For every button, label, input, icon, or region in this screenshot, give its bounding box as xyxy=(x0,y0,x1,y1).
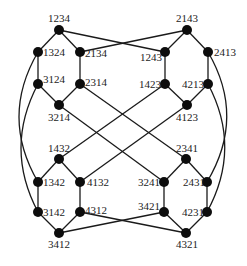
node-4213 xyxy=(203,79,213,89)
edge-3214-3241 xyxy=(59,105,164,182)
edge-2314-2341 xyxy=(80,84,186,159)
node-label: 4123 xyxy=(176,111,199,123)
node-4312 xyxy=(75,207,85,217)
node-4132 xyxy=(75,177,85,187)
edge-1234-1243 xyxy=(59,30,165,52)
node-2134 xyxy=(75,47,85,57)
node-label: 4213 xyxy=(182,78,205,90)
node-label: 1423 xyxy=(139,78,162,90)
node-label: 3214 xyxy=(48,111,71,123)
edge-1423-1432 xyxy=(59,84,165,159)
node-3421 xyxy=(159,207,169,217)
node-label: 3412 xyxy=(48,238,70,250)
node-label: 3241 xyxy=(138,176,160,188)
node-3412 xyxy=(54,228,64,238)
node-2314 xyxy=(75,79,85,89)
edge-4123-4132 xyxy=(80,105,187,182)
node-3124 xyxy=(33,79,43,89)
node-4321 xyxy=(181,228,191,238)
node-1432 xyxy=(54,154,64,164)
node-label: 2134 xyxy=(85,47,108,59)
node-2413 xyxy=(203,47,213,57)
node-label: 4231 xyxy=(182,206,204,218)
node-1423 xyxy=(160,79,170,89)
node-label: 2143 xyxy=(176,12,199,24)
node-2143 xyxy=(182,25,192,35)
node-1324 xyxy=(33,47,43,57)
node-label: 3142 xyxy=(43,206,65,218)
node-label: 2314 xyxy=(85,76,108,88)
node-label: 1342 xyxy=(43,176,65,188)
edge-layer xyxy=(38,30,208,233)
node-1342 xyxy=(33,177,43,187)
edge-3412-3421 xyxy=(59,212,164,233)
node-label: 1432 xyxy=(48,142,70,154)
node-label: 1234 xyxy=(48,12,71,24)
graph-canvas: 1234132421343124231432142143124324131423… xyxy=(0,0,247,266)
node-label: 3124 xyxy=(43,73,66,85)
node-label: 1324 xyxy=(43,46,66,58)
node-label: 4321 xyxy=(176,238,198,250)
node-label: 4312 xyxy=(85,204,107,216)
node-3241 xyxy=(159,177,169,187)
node-3214 xyxy=(54,100,64,110)
node-label: 4132 xyxy=(87,176,109,188)
node-label: 2341 xyxy=(176,142,198,154)
node-2341 xyxy=(181,154,191,164)
node-3142 xyxy=(33,207,43,217)
node-label: 2413 xyxy=(214,46,237,58)
node-label: 1243 xyxy=(140,51,163,63)
node-label: 3421 xyxy=(138,200,160,212)
node-1234 xyxy=(54,25,64,35)
node-4123 xyxy=(182,100,192,110)
node-label: 2431 xyxy=(183,176,205,188)
